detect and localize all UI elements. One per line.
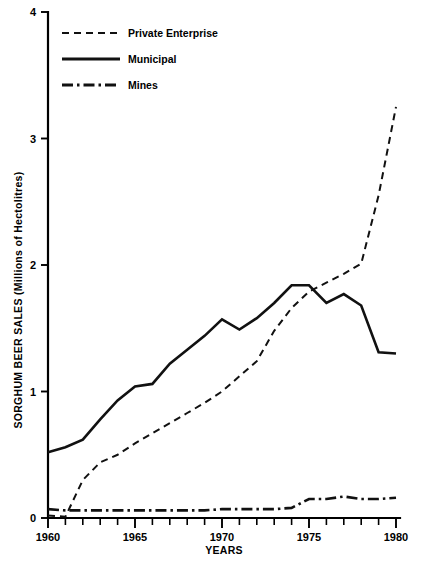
y-tick-label-1: 1 bbox=[30, 386, 36, 398]
y-tick-label-3: 3 bbox=[30, 133, 36, 145]
x-axis-ticks: 19601965197019751980 bbox=[36, 518, 408, 543]
y-tick-label-2: 2 bbox=[30, 259, 36, 271]
legend-label-mines: Mines bbox=[128, 79, 158, 91]
legend-label-private-enterprise: Private Enterprise bbox=[128, 27, 218, 39]
x-tick-label-1970: 1970 bbox=[210, 531, 234, 543]
y-axis-ticks: 01234 bbox=[30, 6, 48, 524]
series-line-mines bbox=[48, 497, 396, 511]
series-line-municipal bbox=[48, 285, 396, 452]
sorghum-beer-sales-chart: SORGHUM BEER SALES (Millions of Hectolit… bbox=[0, 0, 422, 562]
x-axis-title: YEARS bbox=[205, 544, 243, 556]
chart-canvas: SORGHUM BEER SALES (Millions of Hectolit… bbox=[0, 0, 422, 562]
y-axis-title: SORGHUM BEER SALES (Millions of Hectolit… bbox=[12, 171, 24, 428]
x-tick-label-1975: 1975 bbox=[297, 531, 321, 543]
x-tick-label-1960: 1960 bbox=[36, 531, 60, 543]
x-tick-label-1965: 1965 bbox=[123, 531, 147, 543]
y-tick-label-4: 4 bbox=[30, 6, 37, 18]
y-tick-label-0: 0 bbox=[30, 512, 36, 524]
series-line-private-enterprise bbox=[48, 107, 396, 517]
series-group bbox=[48, 107, 396, 517]
chart-legend: Private EnterpriseMunicipalMines bbox=[62, 27, 218, 91]
legend-label-municipal: Municipal bbox=[128, 53, 177, 65]
x-tick-label-1980: 1980 bbox=[384, 531, 408, 543]
